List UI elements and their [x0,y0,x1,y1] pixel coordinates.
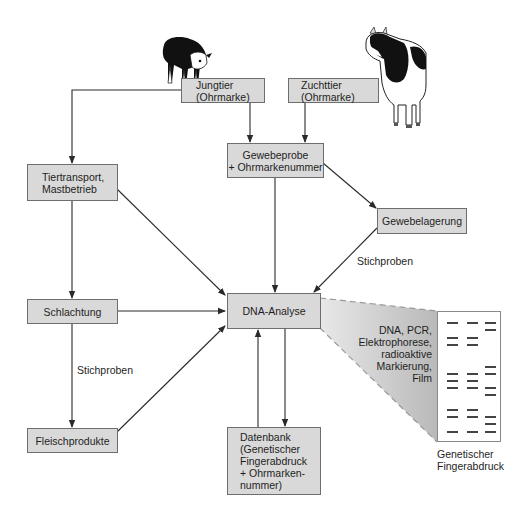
gel-band [447,387,458,389]
node-dna-analyse-label: DNA-Analyse [242,305,305,317]
gel-band [467,373,478,375]
gel-band [447,373,458,375]
edge-label-stichproben-gewebelagerung: Stichproben [357,255,413,267]
gel-band [485,416,496,418]
gel-band [485,431,496,433]
gel-band [467,431,478,433]
node-datenbank-label: Datenbank (Genetischer Fingerabdruck + O… [240,431,307,491]
gel-band [467,337,478,339]
gel-band [467,387,478,389]
node-fleischprodukte-label: Fleischprodukte [35,435,109,447]
gel-band [485,329,496,331]
node-dna-analyse: DNA-Analyse [227,293,321,329]
gel-band [447,344,458,346]
gel-band [485,373,496,375]
gel-band [485,423,496,425]
gel-band [447,416,458,418]
gel-band [485,366,496,368]
gel-band [467,409,478,411]
gel-band [485,387,496,389]
gel-band [447,322,458,324]
genetic-fingerprint-gel [437,311,501,442]
method-description: DNA, PCR, Elektrophorese, radioaktive Ma… [352,324,432,384]
node-tiertransport: Tiertransport, Mastbetrieb [27,164,118,201]
node-schlachtung: Schlachtung [27,299,118,324]
gel-caption: Genetischer Fingerabdruck [437,448,504,472]
gel-band [447,380,458,382]
node-datenbank: Datenbank (Genetischer Fingerabdruck + O… [227,427,321,495]
node-gewebelagerung-label: Gewebelagerung [382,215,462,227]
node-jungtier-label: Jungtier (Ohrmarke) [196,79,250,103]
gel-band [485,394,496,396]
node-zuchttier-label: Zuchttier (Ohrmarke) [301,79,355,103]
gel-band [467,380,478,382]
gel-band [467,344,478,346]
gel-band [467,322,478,324]
node-jungtier: Jungtier (Ohrmarke) [181,78,265,103]
node-tiertransport-label: Tiertransport, Mastbetrieb [42,171,104,195]
gel-band [447,337,458,339]
gel-band [485,322,496,324]
node-gewebelagerung: Gewebelagerung [377,208,467,234]
node-gewebeprobe: Gewebeprobe + Ohrmarkenummer [227,143,324,178]
node-schlachtung-label: Schlachtung [44,306,102,318]
gel-band [447,431,458,433]
node-zuchttier: Zuchttier (Ohrmarke) [288,78,379,103]
gel-band [467,416,478,418]
gel-band [447,409,458,411]
node-fleischprodukte: Fleischprodukte [27,428,118,453]
edge-label-stichproben-schlachtung: Stichproben [77,364,133,376]
node-gewebeprobe-label: Gewebeprobe + Ohrmarkenummer [228,149,322,173]
